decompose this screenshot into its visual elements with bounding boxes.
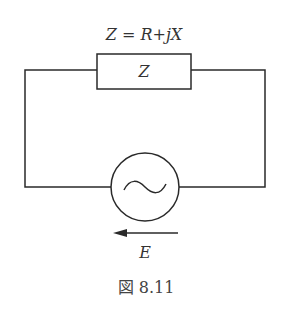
wire-top-right bbox=[179, 70, 265, 187]
circuit-diagram: Z = R+jX Z E 図 8.11 bbox=[0, 0, 287, 310]
impedance-element: Z bbox=[97, 54, 191, 89]
arrow-left-icon bbox=[113, 229, 127, 237]
ac-voltage-source bbox=[111, 153, 179, 221]
figure-caption: 図 8.11 bbox=[118, 278, 175, 297]
formula-label: Z = R+jX bbox=[105, 25, 183, 44]
emf-arrow bbox=[113, 229, 178, 237]
impedance-label: Z bbox=[137, 62, 150, 81]
source-label: E bbox=[138, 243, 151, 262]
